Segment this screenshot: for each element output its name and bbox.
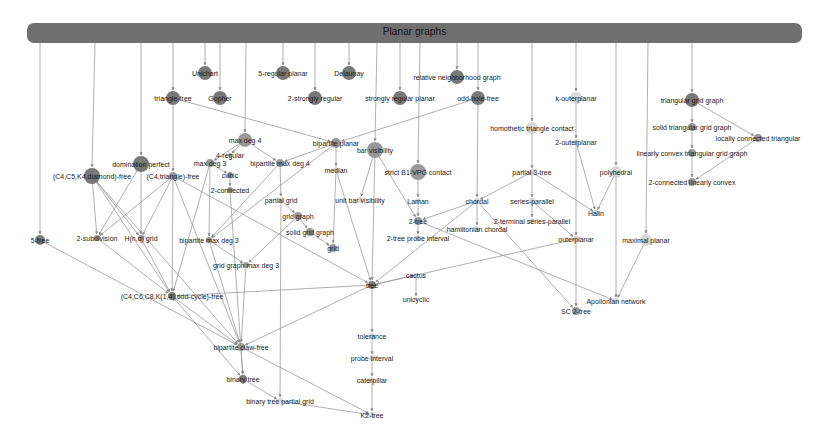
node-hngrid[interactable]: H(n,q) grid [124,235,157,243]
node-kouterplanar[interactable]: k-outerplanar [555,92,597,104]
node-gopher[interactable]: Gopher [208,91,232,105]
node-label: 2-connected [211,187,250,194]
node-unicyclic[interactable]: unicyclic [403,296,430,304]
node-maxdeg4[interactable]: max deg 4 [229,133,262,147]
node-label: odd-hole-free [457,95,499,102]
node-label: 4-regular [216,152,245,160]
node-grid[interactable]: grid [327,244,339,253]
node-bintreepartialgrid[interactable]: binary tree partial grid [246,398,314,406]
node-laman[interactable]: Laman [407,198,429,205]
node-linconvtrigrid[interactable]: linearly convex triangular grid graph [637,149,748,158]
node-barvis[interactable]: bar visibility [357,142,394,158]
node-label: chordal [466,198,489,205]
node-tree[interactable]: tree [366,281,378,289]
node-apollonian[interactable]: Apollonian network [586,298,646,306]
node-bipmaxdeg3[interactable]: bipartite max deg 3 [179,237,239,245]
node-2connlinconv[interactable]: 2-connected linearly convex [649,178,736,187]
node-2connected[interactable]: 2-connected [211,187,250,194]
node-delaunay[interactable]: Delaunay [334,66,364,80]
node-maxplanar[interactable]: maximal planar [622,234,670,246]
node-hamchordal[interactable]: hamiltonian chordal [447,226,508,233]
node-strictb1vpg[interactable]: strict B1-VPG contact [385,164,452,180]
node-domperfect[interactable]: domination perfect [112,156,170,172]
node-partial3tree[interactable]: partial 3-tree [512,169,551,177]
node-label: grid graph [282,213,314,221]
node-c4triangle[interactable]: (C4,triangle)-free [147,172,200,181]
node-halin[interactable]: Halin [588,210,604,217]
node-label: partial 3-tree [512,169,551,177]
node-label: 2-strongly regular [288,95,343,103]
node-label: solid grid graph [286,229,334,237]
node-label: bipartite max deg 3 [179,237,239,245]
edge-c4c6c8-to-bipclawfree [172,296,237,344]
node-median[interactable]: median [325,167,348,174]
node-c4c6c8[interactable]: (C4,C6,C8,K(1,4),odd-cycle)-free [121,292,224,301]
edge-partial3tree-to-chordal [481,172,532,199]
node-label: 2-connected linearly convex [649,179,736,187]
node-soltrigrid[interactable]: solid triangular grid graph [653,123,732,132]
edge-oddholefree-to-chordal [477,98,478,197]
node-cubic[interactable]: cubic [222,172,239,179]
node-maxdeg3[interactable]: max deg 3 [194,159,227,168]
node-probeinterval[interactable]: probe interval [351,355,394,363]
node-locconntri[interactable]: locally connected triangular [716,134,801,143]
node-label: SC 2-tree [561,308,591,315]
node-partialgrid[interactable]: partial grid [265,197,298,205]
node-2subdiv[interactable]: 2-subdivision [77,235,118,242]
node-label: 2-outerplanar [555,139,597,147]
node-k2tree[interactable]: K2-tree [361,412,384,419]
node-gridmaxdeg3[interactable]: grid graph max deg 3 [213,262,279,270]
node-label: tree [366,282,378,289]
node-label: max deg 4 [229,137,262,145]
node-gridgraph[interactable]: grid graph [282,212,314,221]
node-unitbarvis[interactable]: unit bar visibility [335,197,385,205]
node-2outerplanar[interactable]: 2-outerplanar [555,139,597,147]
edge-partial3tree-to-halin [532,172,593,211]
node-label: linearly convex triangular grid graph [637,150,748,158]
nodes-layer: UnichartGophertriangle-free5-regular pla… [31,66,801,419]
node-4regular[interactable]: 4-regular [216,152,245,160]
node-label: 2-subdivision [77,235,118,242]
node-outerplanar[interactable]: outerplanar [558,236,594,244]
root-edge-maxplanar [646,43,648,233]
node-unichart[interactable]: Unichart [192,66,218,80]
node-label: probe interval [351,355,394,363]
node-label: k-outerplanar [555,95,597,103]
node-polyhedral[interactable]: polyhedral [600,166,633,178]
node-label: Unichart [192,70,218,77]
node-trianglefree[interactable]: triangle-free [154,91,191,105]
edge-maxdeg3-to-c4c6c8 [173,163,210,291]
node-solidgridgraph[interactable]: solid grid graph [286,228,334,237]
node-cactus[interactable]: cactus [406,272,427,279]
node-bipclawfree[interactable]: bipartite claw-free [213,343,268,352]
node-trigrid[interactable]: triangular grid graph [661,93,724,107]
node-bipmaxdeg4[interactable]: bipartite max deg 4 [250,159,310,168]
node-2strongreg[interactable]: 2-strongly regular [288,91,343,105]
node-bipplanar[interactable]: bipartite planar [313,138,360,148]
node-caterpillar[interactable]: caterpillar [357,377,388,385]
node-2treeprobe[interactable]: 2-tree probe interval [387,235,450,243]
node-c4c5k4[interactable]: (C4,C5,K4,diamond)-free [53,168,131,184]
node-sctree[interactable]: SC 2-tree [561,307,591,315]
planar-graphs-hierarchy-diagram: Planar graphs UnichartGophertriangle-fre… [0,0,828,442]
node-label: hamiltonian chordal [447,226,508,233]
node-label: Apollonian network [586,298,646,306]
node-2termsp[interactable]: 2-terminal series-parallel [494,218,571,226]
node-5regplanar[interactable]: 5-regular planar [258,66,308,80]
node-homothetic[interactable]: homothetic triangle contact [490,122,574,134]
node-tolerance[interactable]: tolerance [358,333,387,340]
node-rng[interactable]: relative neighborhood graph [413,70,500,84]
edge-c4triangle-to-hngrid [143,176,173,234]
node-label: caterpillar [357,377,388,385]
root-edge-barvis [375,43,377,141]
node-2tree[interactable]: 2-tree [409,217,427,225]
node-label: (C4,triangle)-free [147,173,200,181]
node-seriesparallel[interactable]: series-parallel [510,198,554,206]
node-binarytree[interactable]: binary tree [226,375,259,384]
node-chordal[interactable]: chordal [466,198,489,205]
node-label: 5-regular planar [258,70,308,78]
edge-oddholefree-to-bipplanar [342,98,478,141]
node-label: tolerance [358,333,387,340]
node-label: Delaunay [334,70,364,78]
node-label: Halin [588,210,604,217]
